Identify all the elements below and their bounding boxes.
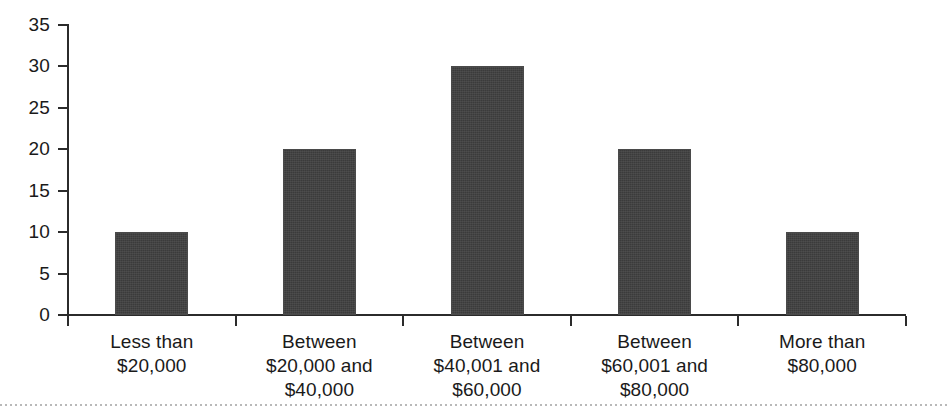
category-label-line: $80,000 [571,378,739,402]
category-label-line: Between [236,330,404,354]
x-axis-category-label: Less than$20,000 [68,330,236,378]
bottom-divider [0,404,947,406]
bar [115,232,188,315]
category-label-line: More than [738,330,906,354]
category-label-line: $60,000 [403,378,571,402]
x-axis-tick [905,316,907,326]
y-axis-tick-label: 30 [0,56,50,75]
category-label-line: Between [403,330,571,354]
category-label-line: $80,000 [738,354,906,378]
category-label-line: $20,000 and [236,354,404,378]
y-axis-tick [58,231,67,233]
y-axis-tick-label: 25 [0,98,50,117]
y-axis-tick [58,24,67,26]
category-label-line: $40,000 [236,378,404,402]
y-axis-tick [58,314,67,316]
y-axis-tick [58,148,67,150]
category-label-line: $60,001 and [571,354,739,378]
x-axis-category-label: Between$20,000 and$40,000 [236,330,404,402]
category-label-line: Between [571,330,739,354]
x-axis-tick [67,316,69,326]
x-axis-tick [235,316,237,326]
bar [618,149,691,315]
bar [451,66,524,315]
bar-chart-figure: 05101520253035 Less than$20,000Between$2… [0,0,947,418]
y-axis-tick-label: 20 [0,139,50,158]
y-axis-tick [58,190,67,192]
x-axis-tick [737,316,739,326]
bar [283,149,356,315]
y-axis-tick-label: 5 [0,264,50,283]
category-label-line: $40,001 and [403,354,571,378]
plot-area [68,25,905,315]
y-axis-tick-label: 10 [0,222,50,241]
y-axis-tick-label: 35 [0,15,50,34]
y-axis-tick [58,65,67,67]
x-axis-category-label: Between$40,001 and$60,000 [403,330,571,402]
x-axis-tick [570,316,572,326]
y-axis-tick [58,107,67,109]
category-label-line: Less than [68,330,236,354]
y-axis-tick-label: 0 [0,305,50,324]
y-axis-tick-label: 15 [0,181,50,200]
x-axis-category-label: Between$60,001 and$80,000 [571,330,739,402]
x-axis-category-label: More than$80,000 [738,330,906,378]
y-axis-tick [58,273,67,275]
x-axis-tick [402,316,404,326]
bar [786,232,859,315]
category-label-line: $20,000 [68,354,236,378]
